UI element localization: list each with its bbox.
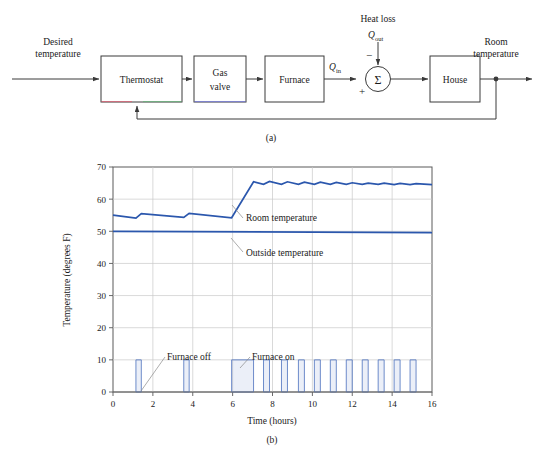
x-tick-label: 16 — [428, 399, 438, 409]
room-temperature-annotation: Room temperature — [246, 213, 317, 223]
furnace-on-annotation: Furnace on — [252, 352, 295, 362]
y-tick-labels: 010203040506070 — [97, 162, 107, 397]
y-axis-title: Temperature (degrees F) — [62, 233, 73, 326]
x-tick-labels: 0246810121416 — [111, 399, 437, 409]
y-tick-label: 50 — [97, 227, 107, 237]
temperature-chart: 0246810121416 010203040506070 Time (hour… — [0, 0, 543, 455]
x-axis-title: Time (hours) — [247, 416, 297, 427]
furnace-pulse — [184, 360, 189, 392]
x-tick-label: 2 — [151, 399, 156, 409]
furnace-pulse — [346, 360, 352, 392]
furnace-pulse — [378, 360, 384, 392]
y-tick-label: 40 — [97, 259, 107, 269]
furnace-pulse — [136, 360, 141, 392]
furnace-pulse — [394, 360, 400, 392]
furnace-pulse — [264, 360, 270, 392]
furnace-pulse — [314, 360, 320, 392]
x-tick-label: 8 — [270, 399, 275, 409]
x-tick-label: 10 — [308, 399, 318, 409]
y-tick-label: 0 — [102, 387, 107, 397]
x-tick-label: 4 — [191, 399, 196, 409]
furnace-pulse — [281, 360, 287, 392]
y-tick-label: 30 — [97, 291, 107, 301]
y-tick-label: 20 — [97, 323, 107, 333]
caption-b: (b) — [266, 435, 277, 446]
y-tick-label: 10 — [97, 355, 107, 365]
figure-container: Desired temperature Thermostat Gas valve… — [0, 0, 543, 455]
furnace-pulse — [330, 360, 336, 392]
x-tick-label: 0 — [111, 399, 116, 409]
outside-temperature-annotation: Outside temperature — [246, 248, 323, 258]
x-tick-label: 14 — [388, 399, 398, 409]
x-tick-label: 6 — [230, 399, 235, 409]
y-tick-label: 60 — [97, 195, 107, 205]
y-tick-label: 70 — [97, 162, 107, 172]
furnace-off-annotation: Furnace off — [167, 352, 212, 362]
furnace-pulse — [362, 360, 368, 392]
x-tick-label: 12 — [348, 399, 357, 409]
furnace-pulse — [298, 360, 304, 392]
furnace-pulse — [410, 360, 416, 392]
